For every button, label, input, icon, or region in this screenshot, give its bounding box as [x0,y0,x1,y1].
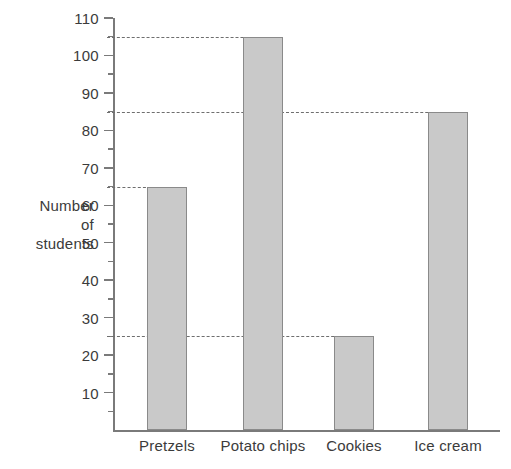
y-axis-title-line-2: of [8,215,94,234]
y-axis-minor-tick [108,298,113,300]
bar-potato-chips [243,37,283,430]
y-axis-tick-label: 100 [57,47,99,64]
y-axis-tick-label: 110 [57,10,99,27]
y-axis-minor-tick [108,411,113,413]
y-axis-major-tick [104,92,113,94]
y-axis-major-tick [104,354,113,356]
y-axis-major-tick [104,317,113,319]
y-axis-major-tick [104,392,113,394]
y-axis-tick-label: 70 [57,159,99,176]
y-axis-tick-label: 20 [57,347,99,364]
x-axis-tick-label: Potato chips [221,437,306,454]
y-axis-line [113,18,115,432]
x-axis-line [113,430,500,432]
y-axis-tick-label: 80 [57,122,99,139]
y-axis-tick-label: 50 [57,234,99,251]
y-axis-minor-tick [108,261,113,263]
y-axis-minor-tick [108,148,113,150]
y-axis-major-tick [104,17,113,19]
y-axis-major-tick [104,167,113,169]
y-axis-tick-label: 90 [57,84,99,101]
y-axis-tick-label: 40 [57,272,99,289]
guide-85 [107,112,468,113]
y-axis-major-tick [104,279,113,281]
y-axis-tick-label: 60 [57,197,99,214]
x-axis-tick-label: Cookies [326,437,382,454]
x-axis-tick-label: Ice cream [414,437,482,454]
x-axis-tick-label: Pretzels [139,437,195,454]
y-axis-major-tick [104,242,113,244]
y-axis-tick-label: 30 [57,309,99,326]
y-axis-minor-tick [108,223,113,225]
y-axis-major-tick [104,130,113,132]
y-axis-tick-label: 10 [57,384,99,401]
y-axis-major-tick [104,205,113,207]
y-axis-minor-tick [108,73,113,75]
bar-ice-cream [428,112,468,430]
y-axis-minor-tick [108,373,113,375]
y-axis-major-tick [104,55,113,57]
bar-chart: Number of students 110100908070605040302… [0,0,511,469]
bar-pretzels [147,187,187,430]
bar-cookies [334,336,374,430]
